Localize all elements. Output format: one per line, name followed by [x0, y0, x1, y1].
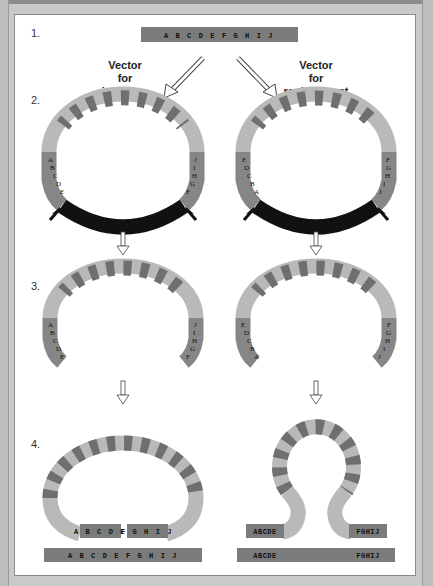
svg-text:for: for	[118, 72, 133, 84]
insertion-integrated-vector	[50, 443, 196, 534]
svg-text:E: E	[60, 188, 64, 196]
svg-text:F: F	[387, 321, 391, 329]
svg-text:J: J	[378, 353, 381, 361]
svg-text:B: B	[250, 180, 255, 188]
step-label-2: 2.	[31, 94, 40, 106]
down-arrow-insertion-3-4-icon	[117, 381, 129, 404]
svg-text:C: C	[53, 337, 58, 345]
svg-text:C: C	[247, 337, 252, 345]
svg-text:Vector: Vector	[299, 59, 333, 71]
svg-text:Vector: Vector	[108, 59, 142, 71]
svg-text:A B C D E F G H I J: A B C D E F G H I J	[68, 552, 178, 560]
svg-text:D: D	[56, 345, 61, 353]
target-gene-label: A B C D E F G H I J	[164, 32, 274, 40]
insertion-chromosome-bar: A B C D E F G H I J	[44, 548, 202, 562]
svg-text:A: A	[254, 353, 259, 361]
arrow-to-insertion-icon	[164, 58, 203, 98]
svg-text:FGHIJ: FGHIJ	[356, 552, 380, 560]
replacement-linearized-vector	[243, 266, 389, 362]
replacement-chromosome-bar: ABCDE FGHIJ	[237, 548, 395, 562]
svg-text:A: A	[254, 188, 259, 196]
svg-text:F G H I J: F G H I J	[121, 528, 173, 536]
svg-text:FGHIJ: FGHIJ	[356, 528, 380, 536]
svg-text:C: C	[53, 172, 58, 180]
svg-text:D: D	[244, 329, 249, 337]
step-label-3: 3.	[31, 280, 40, 292]
target-gene-bar: A B C D E F G H I J	[141, 27, 298, 42]
svg-text:J: J	[194, 156, 197, 164]
svg-text:H: H	[192, 337, 197, 345]
svg-text:ABCDE: ABCDE	[253, 552, 277, 560]
svg-text:F: F	[386, 156, 390, 164]
arrow-to-replacement-icon	[238, 58, 277, 98]
svg-text:D: D	[244, 164, 249, 172]
step-label-1: 1.	[31, 27, 40, 39]
svg-text:D: D	[56, 180, 61, 188]
svg-text:B: B	[50, 329, 55, 337]
replacement-homology-box-right: FGHIJ	[349, 524, 387, 538]
down-arrow-replacement-3-4-icon	[310, 381, 322, 404]
insertion-vector-circle	[49, 94, 197, 227]
insertion-homology-box-right: F G H I J	[121, 524, 173, 538]
down-arrow-replacement-2-3-icon	[310, 232, 322, 255]
svg-text:J: J	[379, 188, 382, 196]
svg-text:G: G	[190, 180, 195, 188]
svg-text:B: B	[50, 164, 55, 172]
down-arrow-insertion-2-3-icon	[117, 232, 129, 255]
svg-text:A: A	[48, 156, 53, 164]
gene-targeting-diagram: 1. 2. 3. 4. A B C D E F G H I J Vector f…	[0, 0, 433, 586]
replacement-omega-loop	[280, 427, 354, 532]
insertion-homology-box-left: A B C D E	[74, 524, 126, 538]
step-label-4: 4.	[31, 438, 40, 450]
svg-text:H: H	[192, 172, 197, 180]
insertion-linearized-vector	[50, 266, 196, 362]
svg-text:F: F	[186, 188, 190, 196]
svg-text:G: G	[190, 345, 195, 353]
svg-text:E: E	[241, 321, 245, 329]
svg-text:G: G	[386, 164, 391, 172]
svg-text:E: E	[60, 353, 64, 361]
replacement-vector-circle	[243, 94, 389, 227]
svg-text:A: A	[48, 321, 53, 329]
replacement-homology-box-left: ABCDE	[246, 524, 284, 538]
svg-text:ABCDE: ABCDE	[253, 528, 277, 536]
svg-text:H: H	[385, 337, 390, 345]
svg-text:F: F	[186, 353, 190, 361]
svg-text:H: H	[385, 172, 390, 180]
svg-text:C: C	[247, 172, 252, 180]
svg-text:B: B	[250, 345, 255, 353]
svg-text:G: G	[386, 329, 391, 337]
svg-text:for: for	[309, 72, 324, 84]
svg-text:A B C D E: A B C D E	[74, 528, 126, 536]
svg-text:J: J	[194, 321, 197, 329]
svg-text:E: E	[242, 156, 246, 164]
